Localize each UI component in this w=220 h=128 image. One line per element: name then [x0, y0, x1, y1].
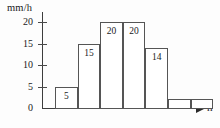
- y-tick-label: 5: [13, 81, 33, 92]
- bar-value-label: 15: [78, 48, 101, 58]
- bar-value-label: 14: [145, 52, 168, 62]
- y-tick-mark: [38, 22, 47, 23]
- y-tick-mark: [38, 87, 47, 88]
- y-tick-label: 15: [13, 38, 33, 49]
- y-tick-label: 0: [13, 102, 33, 113]
- y-tick-mark: [38, 44, 47, 45]
- bar: [191, 99, 214, 109]
- y-tick-mark: [38, 65, 47, 66]
- y-tick-label: 10: [13, 59, 33, 70]
- bar-value-label: 5: [55, 91, 78, 101]
- bar-value-label: 20: [123, 26, 146, 36]
- histogram-chart: mm/h h 05101520 515202014: [0, 0, 220, 128]
- y-tick-label: 20: [13, 16, 33, 27]
- y-axis-line: [42, 12, 43, 109]
- y-axis-unit-label: mm/h: [7, 2, 32, 13]
- bar-value-label: 20: [100, 26, 123, 36]
- bar: [168, 99, 191, 109]
